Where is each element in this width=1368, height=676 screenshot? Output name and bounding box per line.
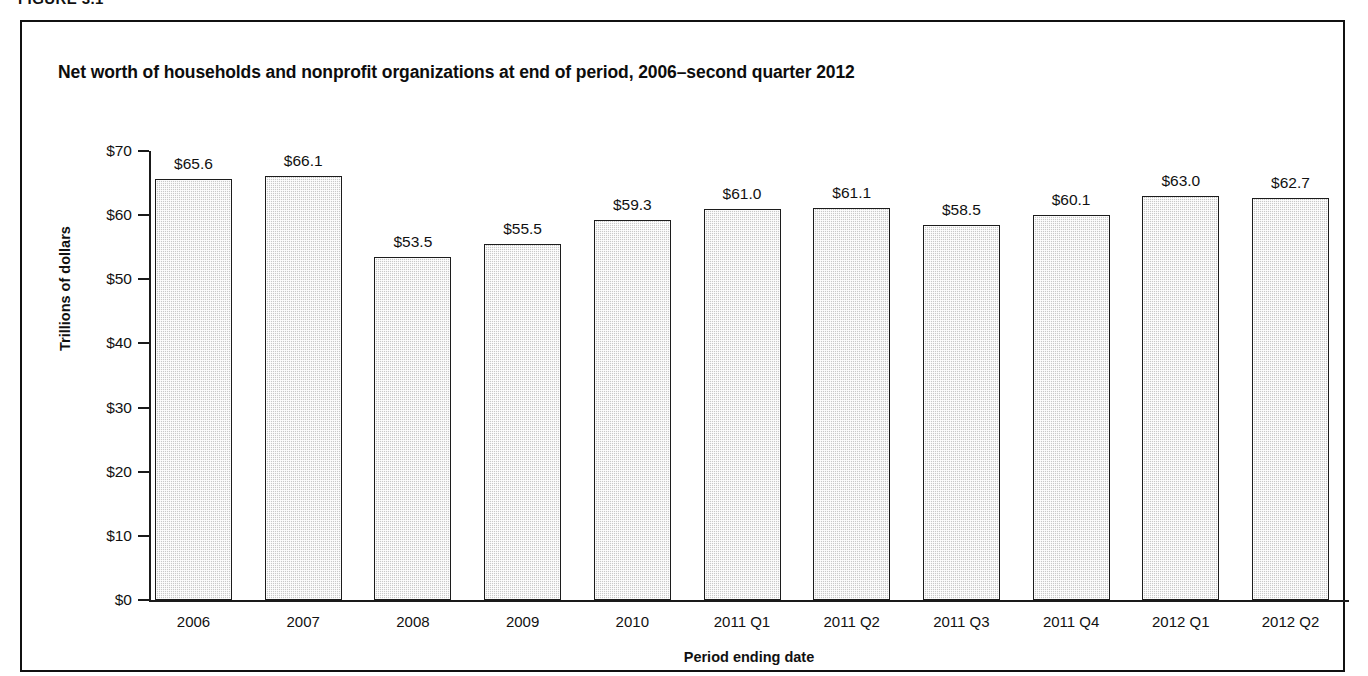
bar-item[interactable]: $61.02011 Q1	[704, 151, 781, 600]
y-axis-tick	[138, 471, 149, 473]
bar-value-label: $55.5	[462, 220, 583, 238]
y-axis-line	[149, 151, 151, 600]
bar-rect[interactable]	[484, 244, 561, 600]
bar-value-label: $65.6	[133, 155, 254, 173]
bar-rect[interactable]	[594, 220, 671, 600]
bar-item[interactable]: $53.52008	[374, 151, 451, 600]
y-axis-tick	[138, 278, 149, 280]
bar-value-label: $66.1	[243, 152, 364, 170]
bar-value-label: $59.3	[572, 196, 693, 214]
bar-rect[interactable]	[1033, 215, 1110, 600]
bar-value-label: $61.1	[791, 184, 912, 202]
x-axis-line	[149, 600, 1349, 602]
y-axis-tick-label: $30	[72, 400, 132, 416]
y-axis-tick	[138, 214, 149, 216]
bar-value-label: $60.1	[1011, 191, 1132, 209]
y-axis-tick-label: $20	[72, 464, 132, 480]
bar-rect[interactable]	[155, 179, 232, 600]
bar-item[interactable]: $62.72012 Q2	[1252, 151, 1329, 600]
bar-rect[interactable]	[1252, 198, 1329, 600]
bar-value-label: $58.5	[901, 201, 1022, 219]
x-axis-tick-label: 2012 Q2	[1226, 613, 1355, 630]
bar-rect[interactable]	[813, 208, 890, 600]
bar-value-label: $63.0	[1120, 172, 1241, 190]
bar-item[interactable]: $63.02012 Q1	[1142, 151, 1219, 600]
y-axis-tick-label: $40	[72, 335, 132, 351]
y-axis-tick	[138, 535, 149, 537]
y-axis-tick-label: $60	[72, 207, 132, 223]
bar-rect[interactable]	[265, 176, 342, 600]
y-axis-tick-label: $0	[72, 592, 132, 608]
bar-rect[interactable]	[704, 209, 781, 600]
figure-number-label: FIGURE 3.1	[18, 0, 104, 7]
y-axis-tick-label: $10	[72, 528, 132, 544]
figure-frame: Net worth of households and nonprofit or…	[20, 20, 1345, 672]
y-axis-tick-label: $70	[72, 143, 132, 159]
plot-area: $0$10$20$30$40$50$60$70 Trillions of dol…	[149, 151, 1349, 600]
figure-caption-clipped	[82, 662, 1283, 672]
bar-item[interactable]: $65.62006	[155, 151, 232, 600]
bar-value-label: $61.0	[682, 185, 803, 203]
bar-item[interactable]: $55.52009	[484, 151, 561, 600]
y-axis-tick	[138, 342, 149, 344]
bar-item[interactable]: $61.12011 Q2	[813, 151, 890, 600]
y-axis-tick	[138, 407, 149, 409]
bar-rect[interactable]	[923, 225, 1000, 600]
y-axis-tick-label: $50	[72, 271, 132, 287]
y-axis-tick	[138, 599, 149, 601]
bar-value-label: $53.5	[352, 233, 473, 251]
bar-item[interactable]: $59.32010	[594, 151, 671, 600]
y-axis-title: Trillions of dollars	[57, 226, 73, 351]
bar-rect[interactable]	[374, 257, 451, 600]
bar-item[interactable]: $60.12011 Q4	[1033, 151, 1110, 600]
chart-title: Net worth of households and nonprofit or…	[58, 62, 855, 83]
y-axis-tick	[138, 150, 149, 152]
bar-rect[interactable]	[1142, 196, 1219, 600]
bar-item[interactable]: $58.52011 Q3	[923, 151, 1000, 600]
bar-item[interactable]: $66.12007	[265, 151, 342, 600]
bar-value-label: $62.7	[1230, 174, 1351, 192]
